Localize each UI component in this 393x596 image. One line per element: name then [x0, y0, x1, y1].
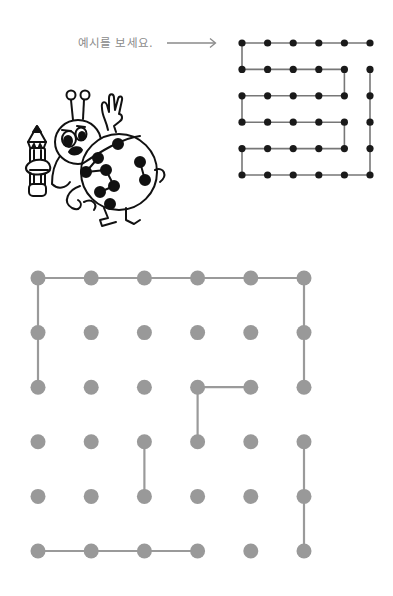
puzzle-dot[interactable]: [137, 489, 152, 504]
puzzle-dot[interactable]: [137, 434, 152, 449]
puzzle-dot[interactable]: [31, 489, 46, 504]
puzzle-dot[interactable]: [190, 325, 205, 340]
puzzle-dot[interactable]: [243, 271, 258, 286]
puzzle-dot[interactable]: [190, 271, 205, 286]
puzzle-dot[interactable]: [31, 325, 46, 340]
puzzle-dot[interactable]: [31, 544, 46, 559]
puzzle-dot[interactable]: [84, 489, 99, 504]
puzzle-dot[interactable]: [31, 380, 46, 395]
puzzle-dot[interactable]: [31, 271, 46, 286]
puzzle-dot[interactable]: [137, 544, 152, 559]
puzzle-dot[interactable]: [297, 271, 312, 286]
puzzle-dot[interactable]: [243, 544, 258, 559]
puzzle-dot[interactable]: [84, 380, 99, 395]
puzzle-dot[interactable]: [243, 325, 258, 340]
puzzle-dot-grid[interactable]: [0, 0, 393, 596]
puzzle-dot[interactable]: [137, 380, 152, 395]
puzzle-dot[interactable]: [84, 434, 99, 449]
puzzle-dot[interactable]: [297, 380, 312, 395]
puzzle-dot[interactable]: [243, 489, 258, 504]
puzzle-dot[interactable]: [31, 434, 46, 449]
puzzle-dot[interactable]: [297, 434, 312, 449]
puzzle-dot[interactable]: [190, 544, 205, 559]
puzzle-dot[interactable]: [137, 325, 152, 340]
puzzle-dot[interactable]: [190, 434, 205, 449]
puzzle-dot[interactable]: [137, 271, 152, 286]
puzzle-dot[interactable]: [297, 489, 312, 504]
puzzle-dot[interactable]: [84, 271, 99, 286]
puzzle-dot[interactable]: [297, 325, 312, 340]
puzzle-dot[interactable]: [243, 434, 258, 449]
puzzle-dot[interactable]: [243, 380, 258, 395]
puzzle-dot[interactable]: [190, 380, 205, 395]
puzzle-dot[interactable]: [190, 489, 205, 504]
puzzle-dot[interactable]: [297, 544, 312, 559]
puzzle-dot[interactable]: [84, 325, 99, 340]
puzzle-dot[interactable]: [84, 544, 99, 559]
